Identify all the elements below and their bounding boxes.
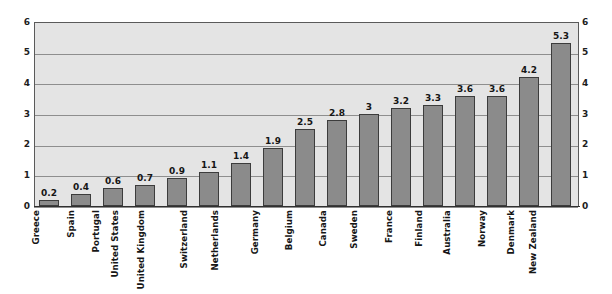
bar[interactable] <box>263 148 283 206</box>
bar-value-label: 5.3 <box>542 32 580 41</box>
bar[interactable] <box>231 163 251 206</box>
category-label: Norway <box>479 210 488 247</box>
bar[interactable] <box>167 178 187 206</box>
bar[interactable] <box>391 108 411 206</box>
category-label: Greece <box>32 210 41 244</box>
bar[interactable] <box>327 120 347 206</box>
category-label: Denmark <box>507 210 516 255</box>
bar-slot: 3.2 <box>386 22 416 206</box>
y-axis-left-tick-0: 0 <box>4 202 30 211</box>
category-label: Australia <box>443 210 452 255</box>
category-label: New Zealand <box>529 210 538 274</box>
y-axis-left-tick-4: 4 <box>4 79 30 88</box>
category-label: United Kingdom <box>137 210 146 289</box>
bars-layer: 0.20.40.60.70.91.11.41.92.52.833.23.33.6… <box>34 22 578 206</box>
category-slot: France <box>386 208 416 294</box>
y-axis-right: 6543210 <box>582 22 608 206</box>
category-label: Netherlands <box>211 210 220 271</box>
x-axis-categories: GreeceSpainPortugalUnited StatesUnited K… <box>34 208 578 294</box>
bar-value-label: 1.1 <box>190 161 228 170</box>
category-slot: Greece <box>34 208 64 294</box>
bar[interactable] <box>359 114 379 206</box>
category-label: Portugal <box>92 210 101 252</box>
y-axis-right-tick-2: 2 <box>582 140 608 149</box>
category-label: France <box>385 210 394 243</box>
category-label: Spain <box>67 210 76 238</box>
bar-slot: 5.3 <box>546 22 576 206</box>
bar[interactable] <box>135 185 155 206</box>
bar-slot: 1.4 <box>226 22 256 206</box>
category-label: Germany <box>251 210 260 254</box>
bar-slot: 2.5 <box>290 22 320 206</box>
bar-slot: 0.9 <box>162 22 192 206</box>
y-axis-right-tick-3: 3 <box>582 110 608 119</box>
y-axis-left-tick-3: 3 <box>4 110 30 119</box>
bar-slot: 3.3 <box>418 22 448 206</box>
category-slot: Sweden <box>354 208 384 294</box>
bar-chart: 6543210 6543210 0.20.40.60.70.91.11.41.9… <box>0 0 612 294</box>
bar-value-label: 4.2 <box>510 66 548 75</box>
bar-slot: 3.6 <box>482 22 512 206</box>
y-axis-right-tick-0: 0 <box>582 202 608 211</box>
bar-slot: 1.9 <box>258 22 288 206</box>
bar[interactable] <box>295 129 315 206</box>
y-axis-right-tick-6: 6 <box>582 18 608 27</box>
bar[interactable] <box>519 77 539 206</box>
y-axis-left-tick-5: 5 <box>4 48 30 57</box>
y-axis-right-tick-5: 5 <box>582 48 608 57</box>
y-axis-left: 6543210 <box>4 22 30 206</box>
y-axis-left-tick-6: 6 <box>4 18 30 27</box>
bar[interactable] <box>455 96 475 206</box>
category-slot: New Zealand <box>546 208 576 294</box>
category-label: Finland <box>415 210 424 247</box>
category-label: Canada <box>319 210 328 247</box>
bar-value-label: 3.3 <box>414 94 452 103</box>
axis-line-right <box>578 22 579 207</box>
bar-value-label: 2.5 <box>286 118 324 127</box>
bar[interactable] <box>423 105 443 206</box>
bar-slot: 2.8 <box>322 22 352 206</box>
bar-slot: 4.2 <box>514 22 544 206</box>
y-axis-right-tick-4: 4 <box>582 79 608 88</box>
bar-slot: 0.6 <box>98 22 128 206</box>
bar[interactable] <box>487 96 507 206</box>
category-label: Switzerland <box>180 210 189 268</box>
y-axis-left-tick-1: 1 <box>4 171 30 180</box>
category-label: Sweden <box>350 210 359 249</box>
bar-slot: 0.7 <box>130 22 160 206</box>
bar-slot: 1.1 <box>194 22 224 206</box>
category-label: Belgium <box>285 210 294 250</box>
category-slot: Canada <box>322 208 352 294</box>
category-slot: Belgium <box>290 208 320 294</box>
bar-slot: 0.2 <box>34 22 64 206</box>
bar-value-label: 1.9 <box>254 137 292 146</box>
bar[interactable] <box>551 43 571 206</box>
bar-slot: 3 <box>354 22 384 206</box>
bar-value-label: 3.6 <box>478 85 516 94</box>
axis-line-baseline <box>34 206 580 207</box>
category-label: United States <box>111 210 120 278</box>
bar[interactable] <box>199 172 219 206</box>
bar-value-label: 1.4 <box>222 152 260 161</box>
bar-slot: 0.4 <box>66 22 96 206</box>
y-axis-left-tick-2: 2 <box>4 140 30 149</box>
y-axis-right-tick-1: 1 <box>582 171 608 180</box>
bar-slot: 3.6 <box>450 22 480 206</box>
bar[interactable] <box>71 194 91 206</box>
category-slot: Australia <box>450 208 480 294</box>
bar[interactable] <box>103 188 123 206</box>
bar[interactable] <box>39 200 59 206</box>
